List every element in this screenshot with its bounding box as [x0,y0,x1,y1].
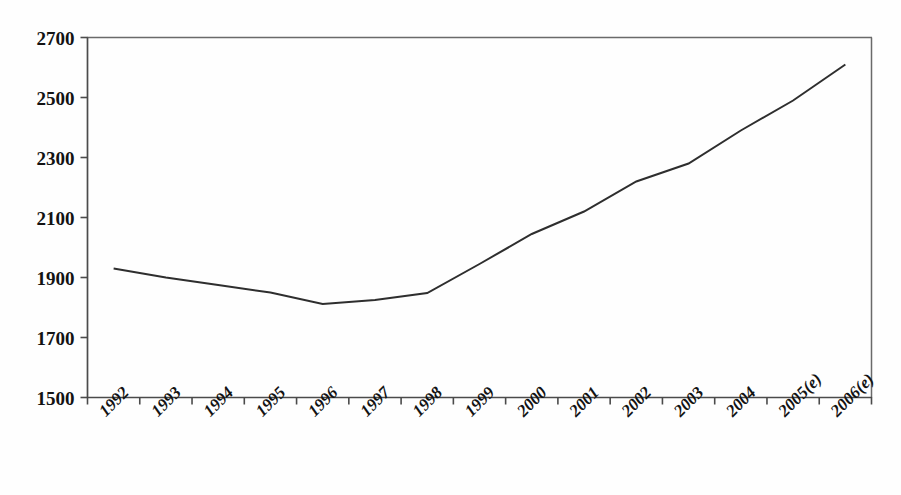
y-tick-label: 2300 [37,148,75,169]
chart-canvas: 1500170019002100230025002700 19921993199… [0,0,901,495]
y-tick-label: 1500 [37,388,75,409]
y-tick-label: 1900 [37,268,75,289]
y-tick-label: 2500 [37,88,75,109]
x-tick-label: 1995 [252,382,290,420]
x-tick-label: 2005(e) [774,370,826,422]
x-tick-label: 1994 [200,383,237,420]
y-tick-label: 1700 [37,328,75,349]
y-tick-label: 2100 [37,208,75,229]
x-tick-label: 2003 [669,382,708,421]
x-tick-label: 1998 [409,382,447,420]
line-chart-figure: 1500170019002100230025002700 19921993199… [0,0,901,495]
x-tick-label: 2006(e) [826,370,878,422]
y-axis-tick-labels: 1500170019002100230025002700 [37,28,75,409]
plot-frame [87,38,872,399]
x-axis-tick-labels: 1992199319941995199619971998199920002001… [95,370,878,422]
x-tick-label: 1993 [147,382,185,420]
x-tick-label: 1992 [95,382,133,420]
x-tick-label: 2002 [617,382,656,421]
x-tick-label: 1996 [304,382,342,420]
y-tick-label: 2700 [37,28,75,49]
x-tick-label: 2000 [512,382,551,421]
x-tick-label: 2001 [565,383,603,421]
x-tick-label: 1997 [356,382,395,421]
x-tick-label: 1999 [461,382,499,420]
data-series-group [114,65,846,304]
x-tick-label: 2004 [722,383,760,421]
y-axis-ticks [81,38,88,398]
chart-page: 1500170019002100230025002700 19921993199… [0,0,901,495]
series-line-path [114,65,846,304]
